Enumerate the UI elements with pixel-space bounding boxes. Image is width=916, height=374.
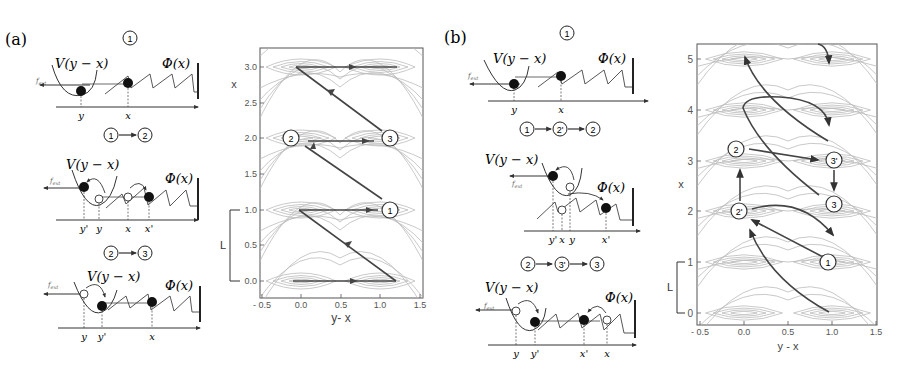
state-marker-2: 2 — [728, 141, 744, 157]
panel-b: (b) 1 V(y − x) Φ(x) fext y x 1 — [444, 26, 882, 359]
svg-text:1: 1 — [564, 29, 569, 39]
svg-text:3': 3' — [559, 260, 566, 270]
svg-text:y: y — [77, 110, 84, 121]
svg-text:Φ(x): Φ(x) — [598, 51, 626, 66]
state-marker-2-prime: 2' — [731, 203, 747, 219]
svg-text:2': 2' — [557, 125, 564, 135]
svg-text:Φ(x): Φ(x) — [597, 180, 625, 195]
panel-b-schematic-2: 1 2' 2 V(y − x) Φ(x) fext y' — [485, 122, 640, 245]
ytick: 0.0 — [244, 276, 257, 286]
ytick: 3 — [687, 156, 693, 167]
svg-text:3: 3 — [142, 249, 147, 259]
svg-text:y: y — [95, 223, 102, 234]
svg-text:fext: fext — [511, 180, 523, 189]
state-marker-3: 3 — [382, 130, 398, 146]
svg-text:V(y − x): V(y − x) — [66, 157, 119, 172]
xtick: - 0.5 — [691, 327, 709, 337]
ytick: 1.5 — [244, 169, 257, 179]
panel-a: (a) 1 V(y − x) Φ(x) fext y x 1 — [5, 30, 426, 342]
state-marker-2: 2 — [283, 130, 299, 146]
svg-text:x: x — [558, 104, 564, 115]
svg-text:Φ(x): Φ(x) — [165, 171, 193, 186]
svg-text:x: x — [149, 331, 155, 342]
ytick: 0.5 — [244, 240, 257, 250]
svg-text:x: x — [559, 234, 565, 245]
panel-b-label: (b) — [444, 28, 467, 47]
xtick: 0.0 — [295, 300, 308, 310]
panel-a-schematic-1: 1 V(y − x) Φ(x) fext y x — [35, 31, 198, 121]
svg-text:3: 3 — [831, 200, 836, 210]
svg-text:2: 2 — [288, 134, 293, 144]
svg-text:V(y − x): V(y − x) — [55, 56, 108, 71]
svg-text:fext: fext — [47, 281, 59, 290]
svg-text:V(y − x): V(y − x) — [485, 152, 538, 167]
xtick: 1.0 — [374, 300, 387, 310]
svg-text:y: y — [568, 234, 575, 245]
ytick: 2.5 — [244, 98, 257, 108]
svg-text:y': y' — [548, 234, 557, 245]
ytick: 1.0 — [244, 205, 257, 215]
svg-text:1: 1 — [825, 258, 830, 268]
xtick: 1.5 — [414, 300, 427, 310]
panel-a-contour-plot: 0.0 0.5 1.0 1.5 2.0 2.5 3.0 - 0.5 0.0 0.… — [220, 31, 426, 325]
panel-a-schematic-3: 2 3 V(y − x) Φ(x) fext y y' x — [44, 246, 200, 342]
svg-text:1: 1 — [108, 131, 113, 141]
svg-text:y: y — [510, 104, 517, 115]
svg-text:3': 3' — [831, 156, 838, 166]
state-marker-3: 3 — [826, 196, 842, 212]
y-axis-label: x — [678, 178, 684, 190]
svg-text:2: 2 — [590, 125, 595, 135]
xtick: 0.0 — [738, 327, 751, 337]
svg-text:fext: fext — [467, 72, 479, 81]
bracket-label: L — [667, 281, 673, 293]
panel-b-contour-plot: 0 1 2 3 4 5 - 0.5 0.0 0.5 1.0 1.5 y - x … — [667, 35, 882, 352]
panel-a-label: (a) — [5, 30, 27, 49]
ytick: 5 — [687, 54, 693, 65]
svg-text:2: 2 — [733, 145, 738, 155]
svg-text:fext: fext — [49, 177, 61, 186]
svg-text:2': 2' — [736, 207, 743, 217]
xtick: 0.5 — [335, 300, 348, 310]
svg-text:y': y' — [79, 223, 88, 234]
state-marker-3-prime: 3' — [826, 152, 842, 168]
ytick: 0 — [687, 308, 693, 319]
ytick: 3.0 — [244, 62, 257, 72]
svg-text:1: 1 — [387, 206, 392, 216]
svg-text:x: x — [604, 348, 610, 359]
svg-text:V(y − x): V(y − x) — [485, 280, 538, 295]
svg-text:Φ(x): Φ(x) — [165, 278, 193, 293]
svg-text:y: y — [80, 331, 87, 342]
svg-text:2: 2 — [142, 131, 147, 141]
svg-text:y: y — [512, 348, 519, 359]
svg-text:V(y − x): V(y − x) — [87, 269, 140, 284]
svg-text:Φ(x): Φ(x) — [162, 56, 190, 71]
xtick: 1.5 — [870, 327, 883, 337]
xtick: 0.5 — [782, 327, 795, 337]
svg-text:2: 2 — [525, 260, 530, 270]
x-axis-label: y - x — [778, 340, 799, 352]
state-marker-1: 1 — [820, 254, 836, 270]
ytick: 2 — [687, 206, 693, 217]
svg-text:V(y − x): V(y − x) — [493, 51, 546, 66]
svg-text:x': x' — [145, 223, 153, 234]
panel-b-schematic-1: 1 V(y − x) Φ(x) fext y x — [467, 26, 648, 115]
svg-text:x: x — [125, 110, 131, 121]
svg-text:y': y' — [97, 331, 106, 342]
xtick: 1.0 — [826, 327, 839, 337]
panel-b-schematic-3: 2 3' 3 V(y − x) Φ(x) fext — [476, 257, 636, 359]
bracket-label: L — [220, 239, 226, 251]
x-axis-label: y- x — [331, 311, 350, 325]
svg-text:2: 2 — [108, 249, 113, 259]
ytick: 1 — [687, 257, 693, 268]
ytick: 2.0 — [244, 133, 257, 143]
svg-text:x': x' — [580, 348, 588, 359]
svg-text:1: 1 — [524, 125, 529, 135]
state-marker-1: 1 — [382, 202, 398, 218]
y-axis-label: x — [231, 78, 237, 90]
ytick: 4 — [687, 105, 693, 116]
svg-text:3: 3 — [594, 260, 599, 270]
xtick: - 0.5 — [253, 300, 271, 310]
panel-a-schematic-2: 1 2 V(y − x) Φ(x) fext y' y x — [44, 128, 198, 234]
svg-text:1: 1 — [127, 34, 132, 44]
svg-text:y': y' — [530, 348, 539, 359]
